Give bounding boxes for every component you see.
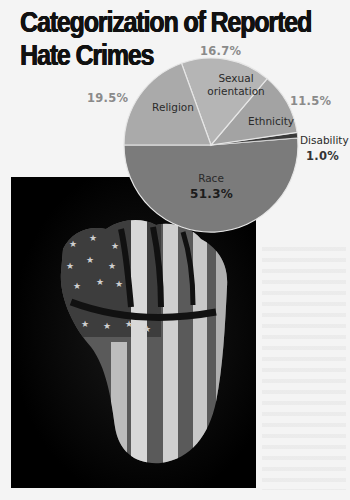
svg-text:★: ★	[111, 241, 119, 251]
svg-text:★: ★	[108, 261, 116, 271]
sexual-orientation-label-line2: orientation	[196, 85, 276, 98]
svg-text:★: ★	[81, 319, 89, 329]
disability-label: Disability	[300, 134, 350, 147]
svg-text:★: ★	[96, 277, 104, 287]
sexual-orientation-label-line1: Sexual	[196, 72, 276, 85]
svg-text:★: ★	[143, 324, 151, 334]
ethnicity-percent: 11.5%	[290, 94, 331, 108]
svg-text:★: ★	[125, 319, 133, 329]
svg-text:★: ★	[73, 281, 81, 291]
race-label: Race	[191, 172, 231, 185]
ethnicity-label: Ethnicity	[241, 115, 301, 128]
sexual-orientation-label: Sexual orientation	[196, 72, 276, 98]
disability-percent: 1.0%	[306, 149, 339, 163]
svg-text:★: ★	[103, 321, 111, 331]
page-bleed-through	[262, 240, 346, 490]
title-line-1: Categorization of Reported	[20, 6, 347, 39]
svg-text:★: ★	[66, 261, 74, 271]
race-percent: 51.3%	[190, 187, 233, 201]
svg-text:★: ★	[115, 279, 123, 289]
svg-text:★: ★	[69, 239, 77, 249]
religion-label: Religion	[143, 101, 203, 114]
religion-percent: 19.5%	[87, 91, 128, 105]
sexual-orientation-percent: 16.7%	[200, 44, 241, 58]
svg-text:★: ★	[86, 255, 94, 265]
svg-text:★: ★	[89, 233, 97, 243]
